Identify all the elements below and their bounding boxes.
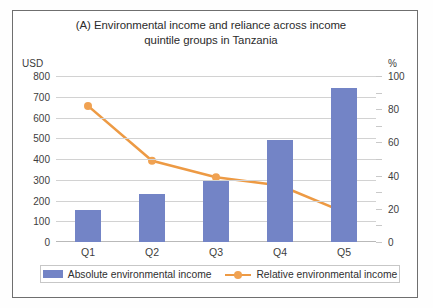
bar-q2 [139, 194, 165, 242]
y-axis-tick-label-left: 100 [20, 216, 50, 227]
y-axis-tick-label-left: 800 [20, 71, 50, 82]
bar-q1 [75, 210, 101, 242]
gridline [56, 159, 376, 160]
x-axis-tick-label-q4: Q4 [273, 246, 287, 258]
line-marker-q2 [148, 157, 156, 165]
legend-label-relative: Relative environmental income [256, 269, 397, 280]
legend-swatch-bar-icon [43, 270, 63, 278]
y-axis-tick-label-right: 40 [388, 170, 418, 181]
y-axis-tick-label-right: 20 [388, 203, 418, 214]
y-axis-tickmark-right [376, 126, 382, 127]
y-axis-tick-label-left: 0 [20, 237, 50, 248]
gridline [56, 118, 376, 119]
right-axis-unit-label: % [388, 58, 397, 69]
bar-q3 [203, 181, 229, 242]
y-axis-tickmark-right [376, 242, 382, 243]
y-axis-tickmark-right [376, 192, 382, 193]
chart-title-line-1: (A) Environmental income and reliance ac… [76, 19, 346, 31]
legend-item-absolute-environmental-income: Absolute environmental income [43, 269, 212, 280]
gridline [56, 138, 376, 139]
line-marker-q1 [84, 102, 92, 110]
x-axis-tick-label-q1: Q1 [81, 246, 95, 258]
y-axis-tickmark-right [376, 109, 382, 110]
y-axis-tickmark-right [376, 225, 382, 226]
y-axis-tick-label-left: 500 [20, 133, 50, 144]
legend-label-absolute: Absolute environmental income [68, 269, 212, 280]
y-axis-tick-label-left: 400 [20, 154, 50, 165]
y-axis-tickmark-right [376, 93, 382, 94]
legend-item-relative-environmental-income: Relative environmental income [225, 269, 397, 280]
y-axis-tickmark-right [376, 209, 382, 210]
left-axis-unit-label: USD [22, 58, 43, 69]
bar-q5 [331, 88, 357, 242]
y-axis-tick-label-right: 80 [388, 104, 418, 115]
chart-figure: (A) Environmental income and reliance ac… [0, 0, 433, 308]
y-axis-tick-label-left: 600 [20, 112, 50, 123]
y-axis-tickmark-right [376, 159, 382, 160]
x-axis-tick-label-q3: Q3 [209, 246, 223, 258]
gridline [56, 76, 376, 77]
x-axis-tick-label-q2: Q2 [145, 246, 159, 258]
y-axis-tick-label-left: 200 [20, 195, 50, 206]
y-axis-tick-label-right: 60 [388, 137, 418, 148]
y-axis-tick-label-right: 0 [388, 237, 418, 248]
y-axis-tick-label-left: 700 [20, 91, 50, 102]
y-axis-tick-label-left: 300 [20, 174, 50, 185]
gridline [56, 97, 376, 98]
plot-area: 0100200300400500600700800020406080100 [56, 76, 376, 242]
chart-legend: Absolute environmental income Relative e… [40, 265, 400, 283]
chart-title-line-2: quintile groups in Tanzania [144, 34, 277, 46]
x-axis-tick-label-q5: Q5 [337, 246, 351, 258]
bar-q4 [267, 140, 293, 242]
chart-title: (A) Environmental income and reliance ac… [46, 18, 376, 48]
y-axis-tickmark-right [376, 176, 382, 177]
y-axis-tickmark-right [376, 76, 382, 77]
legend-swatch-line-icon [225, 269, 251, 279]
y-axis-tick-label-right: 100 [388, 71, 418, 82]
y-axis-tickmark-right [376, 142, 382, 143]
